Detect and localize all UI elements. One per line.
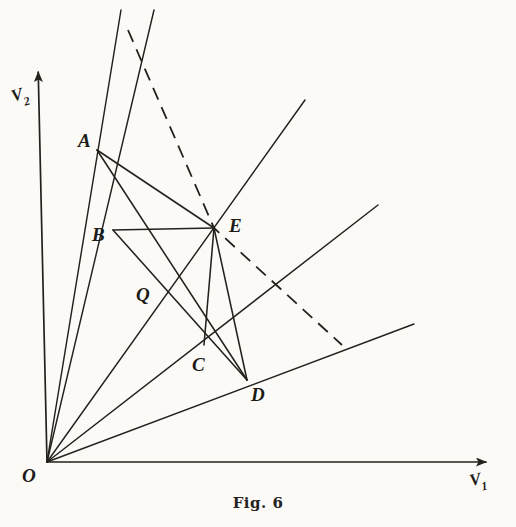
figure-caption: Fig. 6 bbox=[0, 494, 516, 512]
polygon-segments-group bbox=[97, 150, 247, 380]
y-axis bbox=[38, 72, 47, 462]
segment-B-D bbox=[113, 230, 247, 380]
dashed-boundary bbox=[128, 30, 342, 345]
dashed-boundary-group bbox=[128, 30, 342, 345]
x-axis-label-sub: 1 bbox=[480, 479, 489, 494]
ray-3 bbox=[47, 100, 305, 462]
point-label-D: D bbox=[251, 385, 265, 404]
segment-E-D bbox=[214, 228, 247, 380]
point-label-C: C bbox=[192, 355, 205, 374]
ray-5-shallowest bbox=[47, 324, 414, 462]
figure-container: O A B Q E C D V2 V1 Fig. 6 bbox=[0, 0, 516, 527]
figure-drawing bbox=[0, 0, 516, 527]
point-label-A: A bbox=[78, 131, 91, 150]
point-label-B: B bbox=[92, 225, 105, 244]
point-label-Q: Q bbox=[136, 285, 150, 304]
segment-B-E bbox=[113, 228, 214, 230]
point-label-E: E bbox=[229, 216, 242, 235]
ray-1-steepest bbox=[47, 10, 121, 462]
segment-A-D bbox=[97, 150, 247, 380]
point-label-O: O bbox=[22, 466, 36, 485]
